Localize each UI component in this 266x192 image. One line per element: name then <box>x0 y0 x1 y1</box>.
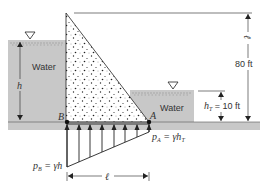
height-symbol: ℓ <box>242 35 253 39</box>
uplift-arrows <box>67 125 149 167</box>
point-B-label: B <box>58 111 64 122</box>
pB-label: pB = γh <box>32 160 62 172</box>
point-A-label: A <box>149 110 157 121</box>
right-water-label: Water <box>160 103 184 113</box>
ground <box>8 122 260 130</box>
dam-diagram: Water Water h ℓ 80 ft hT = 10 ft B A <box>0 0 266 192</box>
free-surface-triangle-right-icon <box>168 82 178 89</box>
left-water-label: Water <box>32 62 56 72</box>
free-surface-triangle-left-icon <box>25 32 35 39</box>
point-B <box>65 120 69 124</box>
h-label: h <box>17 80 22 91</box>
height-value: 80 ft <box>235 59 253 69</box>
length-label: ℓ <box>105 171 109 182</box>
pA-label: pA = γhT <box>151 131 185 143</box>
